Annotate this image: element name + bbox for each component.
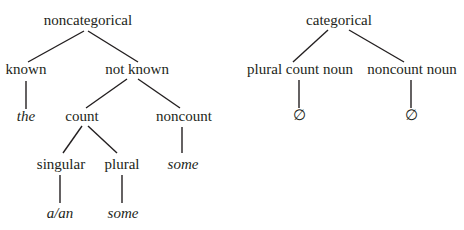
node-plural-some: some: [108, 204, 139, 222]
edge-noncategorical-known: [28, 31, 84, 62]
node-plural: plural: [105, 155, 140, 173]
node-noncount-some: some: [168, 155, 199, 173]
edge-categorical-noncount: [349, 30, 404, 62]
node-singular: singular: [37, 155, 85, 173]
node-categorical: categorical: [306, 11, 372, 29]
edge-count-plural: [88, 126, 117, 153]
node-noncount-noun: noncount noun: [367, 60, 457, 78]
edge-notknown-noncount: [138, 79, 180, 108]
node-noncount: noncount: [156, 107, 212, 125]
edge-categorical-plural: [293, 30, 328, 62]
node-plural-count-noun: plural count noun: [247, 60, 353, 78]
edge-count-singular: [63, 126, 82, 153]
edge-noncategorical-notknown: [88, 31, 138, 62]
node-known: known: [6, 60, 47, 78]
node-empty-set-2: ∅: [405, 106, 418, 124]
node-not-known: not known: [105, 60, 169, 78]
node-count: count: [65, 107, 98, 125]
edge-notknown-count: [86, 79, 127, 108]
node-a-an: a/an: [47, 204, 74, 222]
node-the: the: [17, 107, 35, 125]
node-noncategorical: noncategorical: [44, 11, 132, 29]
node-empty-set-1: ∅: [293, 106, 306, 124]
